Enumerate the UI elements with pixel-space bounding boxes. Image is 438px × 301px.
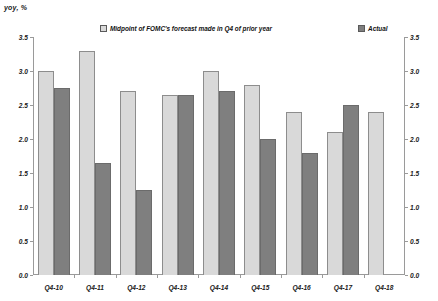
y-tick-right — [405, 139, 408, 140]
y-tick-label-left: 1.0 — [19, 204, 28, 211]
bar-actual[interactable] — [343, 105, 359, 275]
y-tick-label-right: 0.0 — [410, 272, 419, 279]
y-tick-right — [405, 105, 408, 106]
y-tick-right — [405, 275, 408, 276]
bar-groups: Q4-10Q4-11Q4-12Q4-13Q4-14Q4-15Q4-16Q4-17… — [33, 37, 405, 275]
bar-forecast[interactable] — [327, 132, 343, 275]
y-tick-label-left: 1.5 — [19, 170, 28, 177]
x-tick — [74, 275, 75, 278]
bar-forecast[interactable] — [286, 112, 302, 275]
bar-forecast[interactable] — [79, 51, 95, 275]
y-tick-right — [405, 207, 408, 208]
bar-group: Q4-13 — [157, 37, 198, 275]
x-tick-label: Q4-17 — [334, 284, 352, 291]
y-tick-label-right: 1.0 — [410, 204, 419, 211]
y-tick-label-left: 2.5 — [19, 102, 28, 109]
bar-forecast[interactable] — [203, 71, 219, 275]
plot-area: 0.00.51.01.52.02.53.03.5 0.00.51.01.52.0… — [33, 37, 405, 275]
bar-group: Q4-11 — [74, 37, 115, 275]
x-tick-label: Q4-12 — [127, 284, 145, 291]
legend-item-forecast[interactable]: Midpoint of FOMC's forecast made in Q4 o… — [100, 25, 272, 32]
y-tick-label-right: 3.0 — [410, 68, 419, 75]
legend-label-actual: Actual — [368, 25, 388, 32]
bar-group: Q4-14 — [198, 37, 239, 275]
bar-group: Q4-10 — [33, 37, 74, 275]
bar-group: Q4-16 — [281, 37, 322, 275]
y-tick-label-right: 1.5 — [410, 170, 419, 177]
x-tick — [157, 275, 158, 278]
legend-swatch-actual — [358, 25, 365, 32]
y-tick-label-right: 2.5 — [410, 102, 419, 109]
y-tick-label-left: 2.0 — [19, 136, 28, 143]
legend-swatch-forecast — [100, 25, 107, 32]
bar-actual[interactable] — [219, 91, 235, 275]
bar-actual[interactable] — [95, 163, 111, 275]
bar-actual[interactable] — [136, 190, 152, 275]
bar-chart: yoy, % Midpoint of FOMC's forecast made … — [0, 0, 438, 301]
x-tick-label: Q4-11 — [86, 284, 104, 291]
bar-forecast[interactable] — [244, 85, 260, 275]
legend-label-forecast: Midpoint of FOMC's forecast made in Q4 o… — [110, 25, 272, 32]
x-tick — [281, 275, 282, 278]
x-tick-label: Q4-18 — [375, 284, 393, 291]
x-tick-label: Q4-14 — [210, 284, 228, 291]
y-tick-label-right: 0.5 — [410, 238, 419, 245]
x-tick — [116, 275, 117, 278]
x-tick — [240, 275, 241, 278]
x-tick — [322, 275, 323, 278]
x-tick — [198, 275, 199, 278]
x-tick — [364, 275, 365, 278]
bar-forecast[interactable] — [162, 95, 178, 275]
y-tick-label-left: 3.0 — [19, 68, 28, 75]
y-tick-label-right: 2.0 — [410, 136, 419, 143]
bar-forecast[interactable] — [368, 112, 384, 275]
bar-forecast[interactable] — [38, 71, 54, 275]
y-tick-label-right: 3.5 — [410, 34, 419, 41]
bar-actual[interactable] — [260, 139, 276, 275]
bar-actual[interactable] — [302, 153, 318, 275]
y-tick-label-left: 3.5 — [19, 34, 28, 41]
chart-legend: Midpoint of FOMC's forecast made in Q4 o… — [100, 25, 388, 32]
y-tick-right — [405, 37, 408, 38]
bar-actual[interactable] — [178, 95, 194, 275]
y-tick-right — [405, 173, 408, 174]
y-tick-right — [405, 241, 408, 242]
bar-forecast[interactable] — [120, 91, 136, 275]
bar-group: Q4-17 — [322, 37, 363, 275]
bar-actual[interactable] — [54, 88, 70, 275]
y-tick-label-left: 0.5 — [19, 238, 28, 245]
bar-group: Q4-18 — [364, 37, 405, 275]
bar-group: Q4-12 — [116, 37, 157, 275]
x-tick-label: Q4-16 — [292, 284, 310, 291]
x-tick-label: Q4-10 — [44, 284, 62, 291]
bar-group: Q4-15 — [240, 37, 281, 275]
legend-item-actual[interactable]: Actual — [358, 25, 388, 32]
y-axis-unit-label: yoy, % — [4, 4, 27, 11]
y-tick-label-left: 0.0 — [19, 272, 28, 279]
y-tick-left — [30, 275, 33, 276]
x-tick-label: Q4-13 — [168, 284, 186, 291]
y-tick-right — [405, 71, 408, 72]
x-tick-label: Q4-15 — [251, 284, 269, 291]
